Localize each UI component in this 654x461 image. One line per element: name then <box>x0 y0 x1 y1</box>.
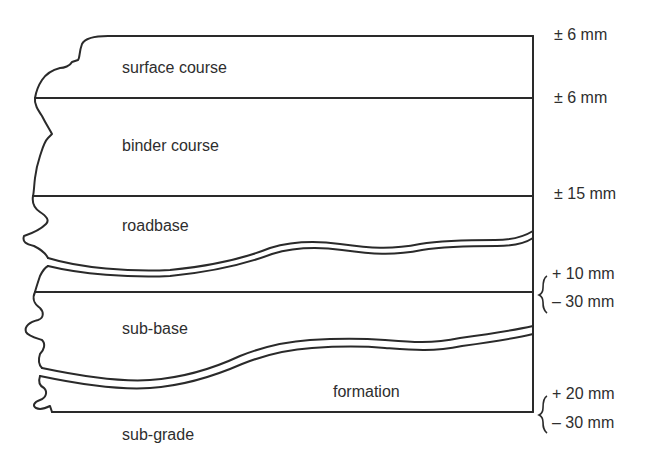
roadbase-left-edge <box>23 196 48 258</box>
tolerance-subbase-upper: + 10 mm <box>552 265 615 283</box>
tolerance-surface: ± 6 mm <box>554 26 607 44</box>
subbase-bottom-upper <box>42 326 533 380</box>
layer-label-roadbase: roadbase <box>122 217 189 235</box>
tolerance-subbase-lower: – 30 mm <box>552 293 614 311</box>
surface-top-line <box>35 36 533 98</box>
tolerance-formation-upper: + 20 mm <box>552 385 615 403</box>
layer-label-surface-course: surface course <box>122 59 227 77</box>
tolerance-roadbase: ± 15 mm <box>554 185 616 203</box>
subbase-left-edge <box>26 292 45 368</box>
layer-label-binder-course: binder course <box>122 137 219 155</box>
formation-left-edge <box>34 376 52 412</box>
layer-label-sub-grade: sub-grade <box>122 426 194 444</box>
subbase-left-edge-top <box>35 266 48 292</box>
tolerance-formation-lower: – 30 mm <box>552 414 614 432</box>
layer-label-sub-base: sub-base <box>122 320 188 338</box>
binder-left-edge <box>33 98 52 196</box>
tolerance-binder: ± 6 mm <box>554 89 607 107</box>
brace-subbase <box>539 276 547 313</box>
brace-formation <box>539 396 547 433</box>
layer-label-formation: formation <box>333 383 400 401</box>
